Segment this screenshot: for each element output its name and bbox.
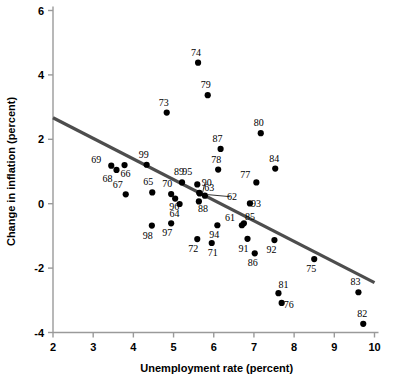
y-tick-label: -4 (34, 327, 45, 339)
x-tick-label: 7 (251, 341, 257, 353)
data-point-label: 81 (278, 279, 288, 290)
data-point-label: 77 (240, 169, 250, 180)
data-point-marker (195, 60, 201, 66)
data-point-label: 83 (350, 276, 360, 287)
data-point-label: 61 (225, 212, 235, 223)
data-point-label: 93 (251, 198, 261, 209)
data-point-marker (258, 130, 264, 136)
data-point-label: 97 (162, 227, 172, 238)
data-point-marker (149, 189, 155, 195)
x-tick-label: 3 (90, 341, 96, 353)
data-point-marker (244, 236, 250, 242)
data-point-label: 70 (162, 178, 172, 189)
data-point-marker (123, 191, 129, 197)
data-point-marker (355, 289, 361, 295)
data-point-marker (272, 166, 278, 172)
data-point-label: 67 (113, 179, 123, 190)
y-tick-label: 6 (38, 5, 44, 17)
data-point-label: 94 (209, 229, 219, 240)
data-point-marker (252, 250, 258, 256)
data-point-label: 82 (357, 308, 367, 319)
data-point-label: 75 (306, 263, 316, 274)
data-point-label: 90 (202, 177, 212, 188)
data-point-label: 79 (201, 79, 211, 90)
data-point-marker (209, 240, 215, 246)
data-point-marker (179, 179, 185, 185)
data-point-marker (113, 167, 119, 173)
y-tick-label: 0 (38, 198, 44, 210)
axes-group (48, 7, 379, 338)
x-tick-label: 8 (291, 341, 297, 353)
data-point-marker (164, 109, 170, 115)
data-point-label: 68 (102, 173, 112, 184)
data-point-label: 85 (245, 211, 255, 222)
data-point-marker (215, 166, 221, 172)
data-point-marker (271, 237, 277, 243)
data-point-label: 62 (227, 191, 237, 202)
data-point-marker (214, 222, 220, 228)
data-point-marker (108, 163, 114, 169)
plot-canvas: 6162636465666768697071727374757677787980… (0, 0, 393, 381)
x-tick-label: 6 (211, 341, 217, 353)
data-point-marker (194, 181, 200, 187)
data-point-label: 98 (143, 230, 153, 241)
data-point-label: 99 (139, 149, 149, 160)
scatter-chart-figure: 6162636465666768697071727374757677787980… (0, 0, 393, 381)
data-point-label: 71 (208, 247, 218, 258)
data-point-marker (275, 290, 281, 296)
data-point-label: 88 (198, 203, 208, 214)
data-point-label: 86 (248, 257, 258, 268)
data-point-label: 72 (188, 243, 198, 254)
data-point-marker (311, 256, 317, 262)
data-point-label: 66 (121, 168, 131, 179)
data-point-marker (253, 179, 259, 185)
x-tick-label: 9 (331, 341, 337, 353)
data-point-label: 74 (191, 47, 201, 58)
data-point-label: 65 (143, 176, 153, 187)
y-axis-title: Change in inflation (percent) (5, 97, 17, 246)
data-point-label: 84 (269, 153, 279, 164)
y-tick-label: -2 (34, 262, 44, 274)
x-tick-label: 2 (50, 341, 56, 353)
data-point-label: 80 (254, 117, 264, 128)
x-axis-title: Unemployment rate (percent) (140, 362, 293, 374)
data-point-label: 78 (211, 154, 221, 165)
x-tick-label: 5 (171, 341, 177, 353)
data-point-label: 92 (266, 244, 276, 255)
data-point-marker (217, 146, 223, 152)
data-point-marker (149, 222, 155, 228)
y-tick-label: 4 (38, 69, 45, 81)
data-point-label: 87 (213, 133, 223, 144)
x-tick-label: 10 (368, 341, 380, 353)
data-point-label: 91 (239, 243, 249, 254)
data-point-marker (194, 236, 200, 242)
data-point-label: 96 (169, 201, 179, 212)
data-point-marker (197, 190, 203, 196)
data-point-label: 76 (284, 299, 294, 310)
data-point-marker (205, 92, 211, 98)
data-point-label: 69 (91, 154, 101, 165)
data-point-marker (360, 321, 366, 327)
data-point-label: 95 (182, 166, 192, 177)
data-point-marker (144, 162, 150, 168)
data-points-group: 6162636465666768697071727374757677787980… (91, 47, 367, 327)
data-point-marker (168, 220, 174, 226)
x-tick-label: 4 (130, 341, 137, 353)
y-tick-label: 2 (38, 133, 44, 145)
data-point-label: 73 (159, 97, 169, 108)
